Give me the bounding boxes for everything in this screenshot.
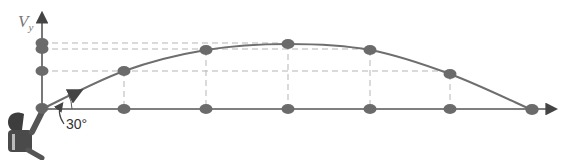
horizontal-axis-dot xyxy=(282,104,295,114)
vertical-axis-dot xyxy=(36,66,49,76)
trajectory-dot xyxy=(364,45,377,55)
horizontal-axis-dot xyxy=(200,104,213,114)
horizontal-axis-dot xyxy=(444,104,457,114)
horizontal-axis-dot xyxy=(118,104,131,114)
horizontal-axis-dot xyxy=(526,104,539,114)
trajectory-dot xyxy=(282,39,295,49)
trajectory-dot xyxy=(118,66,131,76)
trajectory-dot xyxy=(200,45,213,55)
horizontal-axis-dot xyxy=(364,104,377,114)
launch-angle-label: 30° xyxy=(66,116,87,132)
football-player-icon xyxy=(8,104,47,158)
trajectory-dot xyxy=(444,69,457,79)
vertical-axis-dot xyxy=(36,44,49,54)
angle-pointer-arrow-icon xyxy=(59,104,64,124)
trajectory-curve xyxy=(42,44,532,110)
dashed-guide-lines xyxy=(42,43,450,109)
vy-axis-label: Vy xyxy=(18,12,33,33)
diagram-canvas xyxy=(0,0,562,160)
projectile-diagram: Vy 30° xyxy=(0,0,562,160)
